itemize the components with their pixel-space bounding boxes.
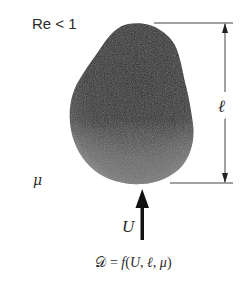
arrowhead-up-icon bbox=[222, 23, 228, 33]
length-label: ℓ bbox=[218, 94, 225, 119]
arrow-up-icon bbox=[136, 189, 150, 208]
diagram-svg bbox=[0, 0, 249, 298]
equals-sign: = bbox=[106, 255, 121, 270]
formula-arg-viscosity: μ bbox=[160, 255, 167, 270]
arrowhead-down-icon bbox=[222, 173, 228, 183]
diagram-canvas: Re < 1 μ ℓ U 𝒟 = f(U, ℓ, μ) bbox=[0, 0, 249, 298]
velocity-label: U bbox=[122, 217, 134, 237]
velocity-arrow bbox=[136, 189, 150, 240]
reynolds-regime-label: Re < 1 bbox=[32, 15, 77, 32]
particle-body bbox=[70, 23, 194, 184]
drag-symbol: 𝒟 bbox=[95, 255, 106, 270]
drag-formula: 𝒟 = f(U, ℓ, μ) bbox=[0, 255, 249, 271]
close-paren: ) bbox=[167, 255, 172, 270]
formula-arg-velocity: U bbox=[130, 255, 140, 270]
formula-separator: , bbox=[140, 255, 147, 270]
viscosity-label: μ bbox=[33, 172, 42, 188]
formula-separator: , bbox=[153, 255, 160, 270]
